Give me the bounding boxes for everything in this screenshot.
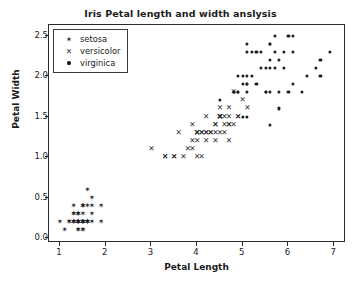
legend-label: virginica [80,58,115,68]
data-point-virginica [314,66,317,69]
x-tick-label: 1 [56,247,61,257]
data-point-virginica [305,75,308,78]
x-tick [333,242,334,246]
x-tick [196,242,197,246]
x-tick-label: 3 [148,247,153,257]
x-marker-icon: ✕ [58,45,80,57]
data-point-versicolor: ✕ [221,121,227,129]
x-tick-label: 5 [239,247,244,257]
x-tick-label: 6 [285,247,290,257]
data-point-versicolor: ✕ [217,105,223,113]
data-point-virginica [255,83,258,86]
x-axis-label: Petal Length [48,262,345,272]
data-point-virginica [273,50,276,53]
data-point-virginica [241,115,244,118]
data-point-virginica [278,58,281,61]
data-point-versicolor: ✕ [203,113,209,121]
x-tick-label: 2 [102,247,107,257]
x-tick [242,242,243,246]
legend-item-virginica: virginica [58,57,120,69]
data-point-virginica [246,50,249,53]
data-point-virginica [264,91,267,94]
data-point-virginica [291,50,294,53]
page-title: Iris Petal length and width anslysis [0,8,361,19]
data-point-versicolor: ✕ [198,129,204,137]
data-point-versicolor: ✕ [244,105,250,113]
x-tick [150,242,151,246]
data-point-virginica [291,83,294,86]
data-point-virginica [278,91,281,94]
data-point-setosa: ✶ [61,226,67,234]
data-point-versicolor: ✕ [203,137,209,145]
data-point-virginica [246,75,249,78]
data-point-versicolor: ✕ [148,145,154,153]
data-point-virginica [218,99,221,102]
x-tick [59,242,60,246]
y-tick-label: 1.0 [34,151,48,161]
data-point-setosa: ✶ [98,202,104,210]
data-point-virginica [328,50,331,53]
y-tick-label: 0.5 [34,192,48,202]
data-point-versicolor: ✕ [176,129,182,137]
legend-item-versicolor: ✕ versicolor [58,45,120,57]
data-point-virginica [246,115,249,118]
data-point-virginica [246,42,249,45]
data-point-virginica [250,75,253,78]
data-point-versicolor: ✕ [226,137,232,145]
data-point-setosa: ✶ [75,226,81,234]
legend-label: setosa [80,34,107,44]
x-tick-label: 4 [193,247,198,257]
y-tick-label: 1.5 [34,111,48,121]
data-point-virginica [287,91,290,94]
data-point-virginica [241,83,244,86]
matplotlib-figure: Iris Petal length and width anslysis ✶✶✶… [0,0,361,287]
legend-item-setosa: ✶ setosa [58,33,120,45]
data-point-setosa: ✶ [75,218,81,226]
y-axis-label: Petal Width [11,39,21,159]
data-point-virginica [287,34,290,37]
data-point-virginica [237,91,240,94]
data-point-virginica [269,66,272,69]
data-point-setosa: ✶ [84,186,90,194]
data-point-virginica [246,83,249,86]
data-point-virginica [269,123,272,126]
star-marker-icon: ✶ [58,33,80,45]
data-point-virginica [269,42,272,45]
data-point-virginica [241,75,244,78]
data-point-virginica [255,50,258,53]
dot-marker-icon [58,57,80,69]
data-point-virginica [246,91,249,94]
data-point-virginica [319,75,322,78]
data-point-virginica [237,75,240,78]
data-point-versicolor: ✕ [230,121,236,129]
data-point-virginica [259,66,262,69]
data-point-virginica [273,34,276,37]
x-tick [287,242,288,246]
data-point-setosa: ✶ [98,218,104,226]
data-point-virginica [291,34,294,37]
data-point-virginica [259,50,262,53]
data-point-virginica [269,91,272,94]
data-point-virginica [301,91,304,94]
x-tick [105,242,106,246]
data-point-virginica [282,50,285,53]
data-point-virginica [278,107,281,110]
data-point-versicolor: ✕ [171,153,177,161]
data-point-virginica [319,58,322,61]
legend-label: versicolor [80,46,120,56]
data-point-virginica [282,66,285,69]
data-point-versicolor: ✕ [198,153,204,161]
data-point-versicolor: ✕ [162,153,168,161]
data-point-versicolor: ✕ [194,137,200,145]
y-tick-label: 2.0 [34,70,48,80]
chart-legend: ✶ setosa ✕ versicolor virginica [53,29,128,73]
x-tick-label: 7 [330,247,335,257]
y-tick-label: 0.0 [34,232,48,242]
data-point-versicolor: ✕ [212,137,218,145]
data-point-virginica [273,66,276,69]
data-point-virginica [250,50,253,53]
data-point-versicolor: ✕ [208,129,214,137]
data-point-virginica [269,58,272,61]
data-point-setosa: ✶ [57,218,63,226]
data-point-virginica [264,66,267,69]
